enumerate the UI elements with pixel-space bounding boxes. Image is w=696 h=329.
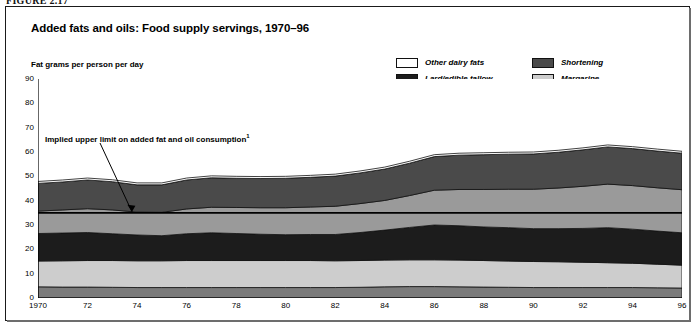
legend-item-shortening: Shortening bbox=[532, 57, 603, 69]
legend-swatch-other-dairy-fats bbox=[396, 58, 418, 68]
x-tick-label: 86 bbox=[414, 302, 454, 310]
area-band-butter bbox=[38, 287, 682, 298]
y-tick-label: 70 bbox=[12, 124, 34, 132]
footnote-marker: 1 bbox=[246, 133, 249, 139]
area-band-margarine bbox=[38, 260, 682, 288]
plot-area: 0102030405060708090197072747678808284868… bbox=[38, 79, 682, 298]
y-tick-label: 10 bbox=[12, 270, 34, 278]
x-tick-label: 94 bbox=[612, 302, 652, 310]
y-tick-label: 50 bbox=[12, 172, 34, 180]
x-tick-label: 84 bbox=[365, 302, 405, 310]
legend-swatch-shortening bbox=[532, 58, 554, 68]
x-tick-label: 1970 bbox=[18, 302, 58, 310]
x-tick-label: 72 bbox=[68, 302, 108, 310]
x-tick-label: 78 bbox=[216, 302, 256, 310]
x-tick-label: 74 bbox=[117, 302, 157, 310]
legend-item-other-dairy-fats: Other dairy fats bbox=[396, 57, 484, 69]
reference-line-annotation-text: Implied upper limit on added fat and oil… bbox=[45, 135, 246, 144]
figure-root: FIGURE 2.17 Added fats and oils: Food su… bbox=[0, 0, 696, 329]
y-tick-label: 20 bbox=[12, 245, 34, 253]
stacked-area-chart bbox=[38, 79, 682, 298]
y-tick-label: 80 bbox=[12, 99, 34, 107]
y-axis-label: Fat grams per person per day bbox=[31, 60, 143, 69]
reference-line-annotation: Implied upper limit on added fat and oil… bbox=[45, 135, 250, 144]
y-tick-label: 30 bbox=[12, 221, 34, 229]
x-tick-label: 76 bbox=[167, 302, 207, 310]
x-tick-label: 80 bbox=[266, 302, 306, 310]
x-tick-label: 96 bbox=[662, 302, 696, 310]
y-tick-label: 40 bbox=[12, 197, 34, 205]
y-tick-label: 60 bbox=[12, 148, 34, 156]
legend-label-other-dairy-fats: Other dairy fats bbox=[425, 58, 484, 68]
y-tick-label: 90 bbox=[12, 75, 34, 83]
x-tick-label: 88 bbox=[464, 302, 504, 310]
x-tick-label: 82 bbox=[315, 302, 355, 310]
legend-label-shortening: Shortening bbox=[561, 58, 603, 68]
x-tick-label: 90 bbox=[513, 302, 553, 310]
x-tick-label: 92 bbox=[563, 302, 603, 310]
chart-title: Added fats and oils: Food supply serving… bbox=[31, 22, 309, 34]
